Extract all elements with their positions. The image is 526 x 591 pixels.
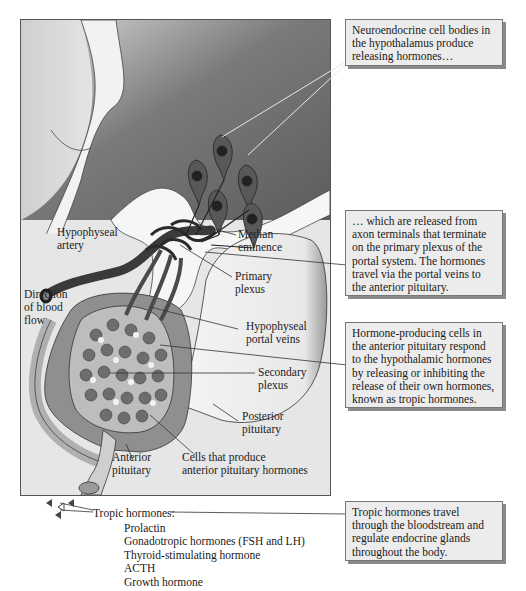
callout-hormone-producing-cells: Hormone-producing cells in the anterior … xyxy=(345,322,503,408)
label-primary-plexus: Primary plexus xyxy=(235,270,272,296)
label-secondary-plexus: Secondary plexus xyxy=(258,366,307,392)
callout-tropic-hormones: Tropic hormones travel through the blood… xyxy=(345,501,503,561)
callout-axon-terminals: … which are released from axon terminals… xyxy=(345,210,503,296)
label-line: pituitary xyxy=(112,464,151,477)
label-line: eminence xyxy=(238,241,282,254)
label-line: Anterior xyxy=(112,451,151,464)
label-line: anterior pituitary hormones xyxy=(182,464,308,477)
tropic-hormones-heading: Tropic hormones: xyxy=(93,507,175,520)
tropic-hormones-list: Prolactin Gonadotropic hormones (FSH and… xyxy=(124,522,305,589)
callout-neuroendocrine-cells: Neuroendocrine cell bodies in the hypoth… xyxy=(345,19,503,66)
label-anterior-pituitary: Anterior pituitary xyxy=(112,451,151,477)
label-line: pituitary xyxy=(242,423,284,436)
tropic-hormone-item: Thyroid-stimulating hormone xyxy=(124,549,305,562)
label-line: Secondary xyxy=(258,366,307,379)
label-cells-that-produce: Cells that produce anterior pituitary ho… xyxy=(182,451,308,477)
tropic-hormone-item: Gonadotropic hormones (FSH and LH) xyxy=(124,535,305,548)
label-hypophyseal-portal-veins: Hypophyseal portal veins xyxy=(246,320,307,346)
label-median-eminence: Median eminence xyxy=(238,228,282,254)
label-line: artery xyxy=(57,239,118,252)
label-line: Median xyxy=(238,228,282,241)
label-posterior-pituitary: Posterior pituitary xyxy=(242,410,284,436)
label-line: Primary xyxy=(235,270,272,283)
tropic-hormone-triangles xyxy=(46,499,74,519)
tropic-hormone-item: ACTH xyxy=(124,562,305,575)
label-line: Hypophyseal xyxy=(57,226,118,239)
label-line: portal veins xyxy=(246,333,307,346)
label-hypophyseal-artery: Hypophyseal artery xyxy=(57,226,118,252)
tropic-hormone-item: Prolactin xyxy=(124,522,305,535)
label-line: plexus xyxy=(235,283,272,296)
label-line: Cells that produce xyxy=(182,451,308,464)
tropic-hormone-item: Growth hormone xyxy=(124,576,305,589)
label-line: flow xyxy=(24,314,67,327)
label-line: Hypophyseal xyxy=(246,320,307,333)
label-line: Direction xyxy=(24,288,67,301)
label-direction-of-blood-flow: Direction of blood flow xyxy=(24,288,67,327)
label-line: Posterior xyxy=(242,410,284,423)
label-line: of blood xyxy=(24,301,67,314)
label-line: plexus xyxy=(258,379,307,392)
